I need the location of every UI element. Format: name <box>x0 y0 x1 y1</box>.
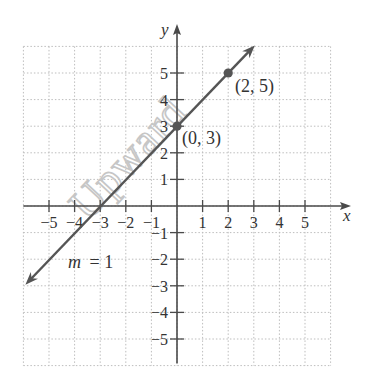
y-tick-label: −1 <box>151 225 168 242</box>
point-label-0-3: (0, 3) <box>182 128 221 149</box>
x-tick-label: 3 <box>250 214 258 231</box>
x-tick-label: 5 <box>301 214 309 231</box>
y-tick-label: 4 <box>160 92 168 109</box>
y-tick-label: −3 <box>151 278 168 295</box>
y-tick-label: 2 <box>160 145 168 162</box>
x-tick-label: −5 <box>40 214 57 231</box>
line-y-equals-x-plus-3 <box>25 45 254 284</box>
y-tick-label: 1 <box>160 171 168 188</box>
point-marker <box>172 122 181 131</box>
slope-value: = 1 <box>90 252 114 272</box>
point-marker <box>224 68 233 77</box>
y-axis-label: y <box>159 20 169 39</box>
x-tick-label: 2 <box>224 214 232 231</box>
y-tick-label: −4 <box>151 304 168 321</box>
x-tick-label: 4 <box>275 214 283 231</box>
slope-symbol: m <box>68 252 81 272</box>
x-tick-label: −2 <box>117 214 134 231</box>
y-tick-label: 5 <box>160 65 168 82</box>
coordinate-plane: Upward −5−4−3−2−112345−5−4−3−2−112345 x … <box>0 0 365 388</box>
slope-label: m = 1 <box>68 252 113 272</box>
y-tick-label: −5 <box>151 331 168 348</box>
line-segment <box>31 51 249 279</box>
x-tick-label: 1 <box>199 214 207 231</box>
y-tick-label: −2 <box>151 251 168 268</box>
y-tick-label: 3 <box>160 118 168 135</box>
point-label-2-5: (2, 5) <box>235 76 274 97</box>
x-tick-label: −3 <box>92 214 109 231</box>
watermark: Upward <box>59 87 196 228</box>
x-axis-label: x <box>342 206 351 225</box>
